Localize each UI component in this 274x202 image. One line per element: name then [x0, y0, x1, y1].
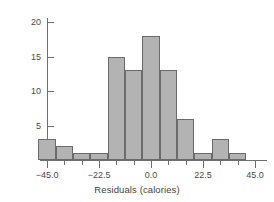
- y-tick-mark: [48, 126, 54, 127]
- histogram-bar: [194, 153, 211, 160]
- x-minor-tick-mark: [134, 161, 135, 165]
- histogram-chart: 2015105 −45.0−22.50.022.545.0 Residuals …: [0, 0, 274, 202]
- x-tick-label: 45.0: [235, 170, 274, 180]
- x-minor-tick-mark: [186, 161, 187, 165]
- histogram-bar: [73, 153, 90, 160]
- x-minor-tick-mark: [116, 161, 117, 165]
- x-tick-label: −22.5: [79, 170, 119, 180]
- x-tick-label: 0.0: [131, 170, 171, 180]
- histogram-bar: [90, 153, 107, 160]
- histogram-bar: [229, 153, 246, 160]
- x-axis-line: [40, 160, 267, 161]
- x-minor-tick-mark: [220, 161, 221, 165]
- y-tick-label: 10: [15, 87, 41, 96]
- x-tick-mark: [203, 161, 204, 168]
- histogram-bar: [56, 146, 73, 160]
- histogram-bar: [177, 119, 194, 160]
- histogram-bar: [125, 70, 142, 160]
- histogram-bar: [38, 139, 55, 160]
- x-tick-mark: [47, 161, 48, 168]
- plot-area: 2015105 −45.0−22.50.022.545.0: [0, 0, 274, 202]
- x-minor-tick-mark: [82, 161, 83, 165]
- y-tick-label: 20: [15, 18, 41, 27]
- histogram-bar: [142, 36, 159, 160]
- x-tick-mark: [151, 161, 152, 168]
- histogram-bar: [108, 57, 125, 161]
- histogram-bar: [160, 70, 177, 160]
- x-minor-tick-mark: [168, 161, 169, 165]
- y-tick-mark: [48, 22, 54, 23]
- histogram-bar: [212, 139, 229, 160]
- x-minor-tick-mark: [238, 161, 239, 165]
- x-minor-tick-mark: [64, 161, 65, 165]
- y-tick-mark: [48, 91, 54, 92]
- y-tick-label: 15: [15, 53, 41, 62]
- x-tick-mark: [99, 161, 100, 168]
- y-tick-mark: [48, 57, 54, 58]
- x-tick-label: −45.0: [27, 170, 67, 180]
- x-axis-title: Residuals (calories): [0, 184, 274, 195]
- x-tick-label: 22.5: [183, 170, 223, 180]
- x-tick-mark: [255, 161, 256, 168]
- y-tick-label: 5: [15, 122, 41, 131]
